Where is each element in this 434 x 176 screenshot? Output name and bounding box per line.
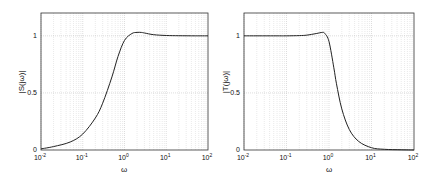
xlabel-left: ω <box>121 165 127 174</box>
ylabel-left: |S(jω)| <box>17 71 26 94</box>
ytick-1: 1 <box>33 32 37 39</box>
ylabel-right: |T(jω)| <box>221 71 230 93</box>
xtick-label: 100 <box>118 152 129 161</box>
xtick-label: 101 <box>160 152 171 161</box>
figure: 0 0.5 1 10-210-1100101102 ω |S(jω)| 0 0.… <box>0 0 434 176</box>
grid-right <box>244 13 414 150</box>
ytick-1: 1 <box>236 32 240 39</box>
xlabel-right: ω <box>326 165 332 174</box>
xtick-label: 10-2 <box>237 152 249 161</box>
plot-sensitivity: 0 0.5 1 10-210-1100101102 ω |S(jω)| <box>17 13 213 174</box>
yticklabels-left: 0 0.5 1 <box>27 32 37 153</box>
ytick-0.5: 0.5 <box>230 89 240 96</box>
xtick-label: 100 <box>323 152 334 161</box>
xticklabels-left: 10-210-1100101102 <box>34 152 213 161</box>
yticklabels-right: 0 0.5 1 <box>230 32 240 153</box>
xticklabels-right: 10-210-1100101102 <box>237 152 419 161</box>
xtick-label: 102 <box>202 152 213 161</box>
plot-complementary-sensitivity: 0 0.5 1 10-210-1100101102 ω |T(jω)| <box>221 13 419 174</box>
xtick-label: 102 <box>408 152 419 161</box>
xtick-label: 101 <box>365 152 376 161</box>
xtick-label: 10-2 <box>34 152 46 161</box>
ytick-0.5: 0.5 <box>27 89 37 96</box>
ytick-0: 0 <box>236 146 240 153</box>
xtick-label: 10-1 <box>279 152 291 161</box>
xtick-label: 10-1 <box>76 152 88 161</box>
grid-left <box>41 13 208 150</box>
ytick-0: 0 <box>33 146 37 153</box>
